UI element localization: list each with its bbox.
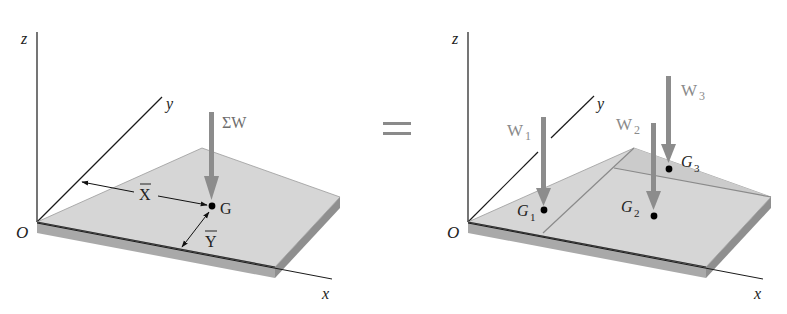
y-bar-label: Y [205, 231, 217, 250]
center-of-gravity-label: G [220, 200, 232, 217]
weight-label-3: W 3 [681, 81, 705, 103]
y-axis-label: y [164, 95, 174, 113]
weight-label-1: W 1 [507, 121, 531, 143]
svg-text:G: G [517, 202, 529, 219]
svg-text:2: 2 [634, 207, 640, 219]
center-of-gravity-figure: z y x O ΣW G X Y [0, 0, 787, 314]
svg-text:2: 2 [634, 123, 640, 137]
origin-label: O [16, 223, 28, 242]
svg-text:3: 3 [699, 89, 705, 103]
right-diagram: z y x O W 1 W 2 W 3 G 1 G 2 G 3 [447, 30, 771, 302]
y-axis-label: y [595, 95, 605, 113]
svg-text:G: G [681, 153, 693, 170]
point-g1 [541, 207, 548, 214]
svg-text:1: 1 [530, 211, 536, 223]
svg-text:X: X [139, 186, 151, 203]
svg-text:W: W [507, 121, 524, 140]
weight-label-2: W 2 [616, 115, 640, 137]
svg-text:Y: Y [205, 233, 217, 250]
resultant-weight-label: ΣW [222, 114, 247, 131]
z-axis-label: z [20, 30, 28, 47]
equals-sign [383, 122, 411, 135]
center-of-gravity-point [209, 203, 216, 210]
point-g3 [666, 166, 673, 173]
weight-arrow-1 [536, 117, 551, 206]
svg-text:W: W [681, 81, 698, 100]
origin-label: O [447, 223, 459, 242]
svg-text:W: W [616, 115, 633, 134]
svg-text:1: 1 [525, 129, 531, 143]
weight-arrow-3 [661, 76, 676, 163]
x-axis-label: x [753, 285, 761, 302]
point-g2 [651, 213, 658, 220]
left-diagram: z y x O ΣW G X Y [16, 30, 340, 302]
svg-text:3: 3 [694, 162, 700, 174]
x-bar-label: X [139, 184, 151, 203]
svg-text:G: G [621, 198, 633, 215]
z-axis-label: z [451, 30, 459, 47]
x-axis-label: x [321, 285, 329, 302]
